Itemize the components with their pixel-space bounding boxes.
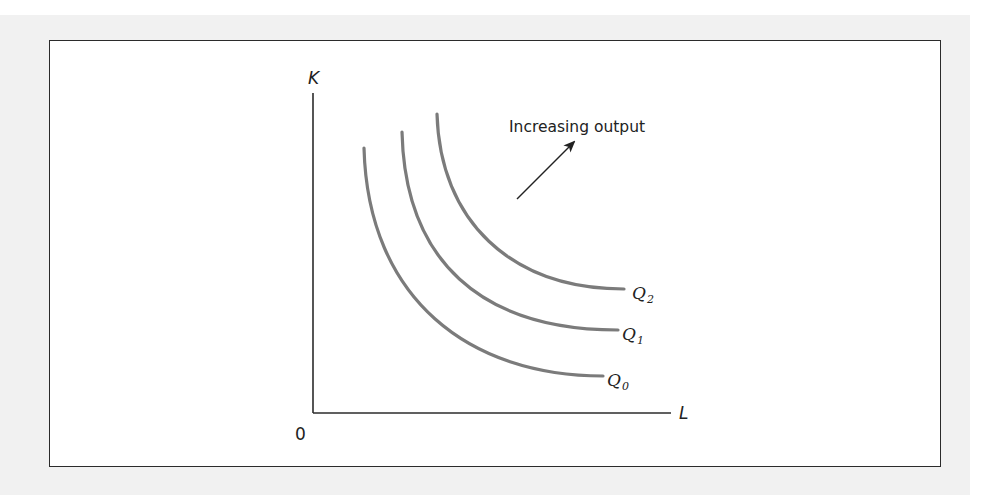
increasing-output-annotation: Increasing output bbox=[509, 118, 645, 199]
isoquant-label-q1: Q1 bbox=[622, 324, 644, 347]
arrow-icon bbox=[517, 142, 574, 199]
y-axis-label: K bbox=[308, 68, 321, 88]
isoquant-q1 bbox=[402, 132, 618, 330]
annotation-text: Increasing output bbox=[509, 118, 645, 136]
isoquant-q2 bbox=[437, 114, 624, 289]
isoquant-diagram: K L 0 Q0Q1Q2 Increasing output bbox=[0, 0, 1000, 495]
x-axis-label: L bbox=[679, 403, 688, 423]
isoquant-curves: Q0Q1Q2 bbox=[364, 114, 654, 393]
origin-label: 0 bbox=[295, 424, 306, 444]
isoquant-label-q0: Q0 bbox=[607, 370, 629, 393]
isoquant-label-q2: Q2 bbox=[632, 283, 654, 306]
isoquant-q0 bbox=[364, 148, 603, 376]
